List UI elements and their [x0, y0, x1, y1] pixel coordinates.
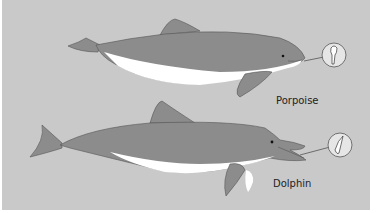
dolphin-pointer-line — [300, 147, 330, 155]
dolphin-label: Dolphin — [273, 178, 311, 189]
porpoise-pointer-line — [304, 57, 324, 61]
porpoise-eye — [282, 55, 285, 58]
dolphin-eye — [271, 141, 274, 144]
dolphin-pectoral-fin — [225, 164, 245, 196]
cetacean-comparison-illustration — [0, 0, 380, 213]
porpoise-tail — [68, 38, 100, 52]
dolphin-tail — [30, 125, 62, 157]
dolphin-flipper-highlight — [245, 170, 253, 192]
porpoise-figure — [68, 19, 346, 97]
porpoise-label: Porpoise — [276, 95, 319, 106]
dolphin-dorsal-fin — [150, 101, 195, 123]
